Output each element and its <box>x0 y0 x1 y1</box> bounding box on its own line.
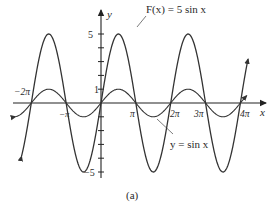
caption: (a) <box>126 189 139 202</box>
y-tick-label-m5: −5 <box>84 167 95 178</box>
chart-figure: y x F(x) = 5 sin x y = sin x 5 1 −5 −2π … <box>0 0 277 209</box>
x-tick-label-4pi: 4π <box>240 109 250 119</box>
f-label-leader <box>137 16 146 27</box>
f-label: F(x) = 5 sin x <box>146 3 206 16</box>
y-axis-label: y <box>106 8 112 20</box>
y-tick-label-5: 5 <box>88 29 93 40</box>
sin-label-leader <box>157 119 173 134</box>
x-axis-label: x <box>259 106 265 118</box>
sin-label: y = sin x <box>170 138 209 150</box>
x-tick-label-mpi: −π <box>59 109 70 119</box>
x-tick-label-pi: π <box>130 109 135 119</box>
y-tick-label-1: 1 <box>94 84 99 95</box>
x-tick-label-m2pi: −2π <box>14 87 30 97</box>
sine-plot: y x F(x) = 5 sin x y = sin x 5 1 −5 −2π … <box>0 0 277 209</box>
x-tick-label-3pi: 3π <box>193 109 204 119</box>
x-tick-label-2pi: 2π <box>170 109 180 119</box>
